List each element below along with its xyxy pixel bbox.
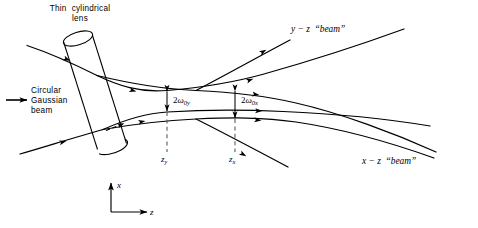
waist-y-subscript: 0y <box>184 99 190 106</box>
z-x-position-label: zx <box>229 154 235 165</box>
waist-x-subscript: 0x <box>252 99 258 106</box>
axis-z-label: z <box>150 207 154 217</box>
figure-root: Thin cylindrical lens Circular Gaussian … <box>0 0 478 228</box>
input-beam-label-line1: Circular <box>31 86 61 95</box>
lens-title-line1: Thin cylindrical <box>32 4 128 13</box>
waist-y-label: 2ω0y <box>173 95 190 106</box>
z-x-subscript: x <box>233 158 236 165</box>
beam-rays <box>20 29 436 167</box>
lens-title-line2: lens <box>32 14 128 23</box>
beam-yz-label: y − z “beam” <box>291 24 345 35</box>
input-beam-label-line2: Gaussian <box>31 96 68 105</box>
axis-x-label: x <box>117 180 121 190</box>
beam-xz-label: x − z “beam” <box>362 156 416 167</box>
z-y-subscript: y <box>165 158 168 165</box>
z-y-position-label: zy <box>161 154 167 165</box>
beam-diagram-svg <box>0 0 478 228</box>
waist-x-label: 2ω0x <box>241 95 258 106</box>
input-beam-label-line3: beam <box>31 106 52 115</box>
